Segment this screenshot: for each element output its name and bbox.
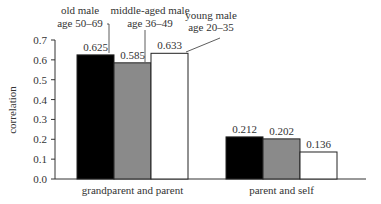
y-ticks: 0.00.10.20.30.40.50.60.7 [33, 34, 55, 185]
bar [226, 137, 263, 179]
y-tick-label: 0.5 [33, 74, 47, 86]
y-tick-label: 0.0 [33, 173, 47, 185]
series-callout-line2: age 50–69 [57, 17, 103, 29]
bar [300, 152, 337, 179]
series-callout-line1: old male [61, 4, 99, 16]
bar [151, 53, 188, 179]
bar [263, 139, 300, 179]
x-category-label: grandparent and parent [82, 184, 183, 196]
x-category-label: parent and self [249, 184, 314, 196]
series-callout-line1: middle-aged male [110, 4, 189, 16]
y-tick-label: 0.6 [33, 54, 47, 66]
series-callout-line1: young male [185, 9, 237, 21]
y-tick-label: 0.2 [33, 133, 47, 145]
bar-value-label: 0.633 [157, 39, 182, 51]
y-tick-label: 0.1 [33, 153, 47, 165]
bar-value-label: 0.585 [120, 49, 145, 61]
y-tick-label: 0.7 [33, 34, 47, 46]
bar [77, 55, 114, 179]
y-tick-label: 0.4 [33, 94, 47, 106]
bar [114, 63, 151, 179]
bar-chart: 0.00.10.20.30.40.50.60.7 correlation 0.6… [0, 0, 381, 204]
bar-value-label: 0.136 [306, 138, 331, 150]
bar-value-label: 0.202 [269, 125, 294, 137]
bars: 0.6250.2120.5850.2020.6330.136 [77, 39, 337, 179]
callout-leader-line [186, 38, 220, 52]
y-tick-label: 0.3 [33, 113, 47, 125]
bar-value-label: 0.625 [83, 41, 108, 53]
series-callouts: old maleage 50–69middle-aged maleage 36–… [57, 4, 237, 62]
y-axis-label: correlation [6, 86, 18, 134]
series-callout-line2: age 36–49 [127, 17, 173, 29]
series-callout-line2: age 20–35 [188, 21, 234, 33]
x-category-labels: grandparent and parentparent and self [82, 184, 314, 196]
bar-value-label: 0.212 [232, 123, 257, 135]
